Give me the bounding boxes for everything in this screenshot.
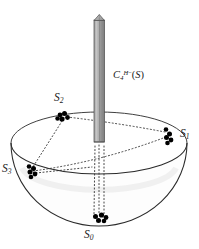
central-rod bbox=[94, 15, 105, 143]
site-label-s3: S3 bbox=[2, 163, 12, 176]
connection-s2-s1 bbox=[67, 117, 165, 132]
connection-s2-s3 bbox=[31, 118, 64, 170]
site-label-s0: S0 bbox=[84, 229, 94, 242]
operator-label: C4H−(S) bbox=[113, 70, 144, 82]
site-cluster-s2 bbox=[55, 111, 70, 122]
bowl-diagram-svg bbox=[0, 0, 199, 249]
site-cluster-s1 bbox=[164, 127, 174, 145]
site-label-s2: S2 bbox=[54, 92, 64, 105]
site-label-s1: S1 bbox=[180, 128, 190, 141]
figure-canvas: S0 S1 S2 S3 C4H−(S) bbox=[0, 0, 199, 249]
